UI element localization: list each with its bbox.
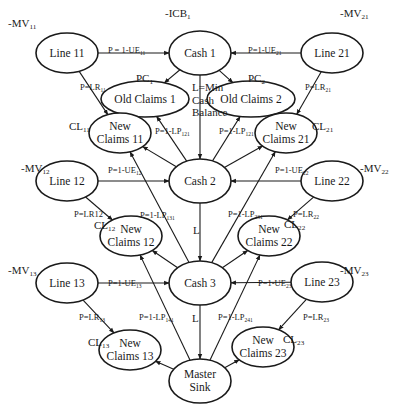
label-subscript: 23 [361, 270, 368, 278]
edge-sink-to-new13 [156, 361, 174, 369]
label-base: P=1-LP [219, 126, 246, 136]
node-label-cash1: Cash 1 [184, 47, 216, 60]
label-base: PC [136, 72, 149, 84]
label-subscript: 241 [245, 317, 253, 323]
label-subscript: 23 [323, 317, 329, 323]
node-label-line: Claims 12 [108, 236, 155, 249]
edge-label-e-cash3-new21: P=1-LP231 [228, 210, 263, 219]
node-label-line11: Line 11 [49, 47, 84, 60]
outer-label-cl12: CL12 [94, 220, 115, 231]
edge-sink-to-new23 [225, 360, 240, 368]
label-subscript: 13 [29, 270, 36, 278]
flow-label-cash2-cash3: L [193, 225, 200, 236]
node-label-line: Claims 13 [107, 350, 154, 363]
label-subscript: 21 [325, 87, 331, 93]
edge-label-e-line21-cash1: P=1-UE21 [248, 46, 281, 55]
node-label-line: New [240, 334, 287, 347]
label-base: CL [283, 333, 297, 345]
flow-label-line: L=Min [192, 81, 227, 94]
node-label-line21: Line 21 [314, 47, 349, 60]
label-subscript: 11 [100, 87, 105, 93]
node-label-line: Old Claims 2 [220, 93, 281, 106]
edge-label-e-line22-cash2: P=1-UE22 [275, 166, 308, 175]
label-subscript: 12 [136, 170, 142, 176]
label-base: CL [284, 218, 298, 230]
node-label-cash3: Cash 3 [184, 277, 216, 290]
outer-label-mv11: -MV11 [8, 18, 36, 29]
flow-label-line: Cash [192, 94, 227, 107]
outer-label-mv22: -MV22 [360, 163, 389, 174]
label-base: CL [69, 120, 83, 132]
edge-label-e-cash3-new11: P=1-LP131 [140, 211, 175, 220]
label-subscript: 23 [286, 283, 292, 289]
label-base: -MV [21, 162, 42, 174]
label-subscript: 13 [102, 342, 109, 350]
edge-cash2-to-old1 [157, 116, 187, 161]
outer-label-mv23: -MV23 [340, 265, 369, 276]
node-label-line: Cash 1 [184, 47, 216, 60]
label-base: P=1-LP [139, 312, 166, 322]
label-base: CL [94, 219, 108, 231]
label-subscript: 121 [182, 131, 190, 137]
label-subscript: 13 [99, 317, 105, 323]
outer-label-cl11: CL11 [69, 121, 90, 132]
label-subscript: 21 [361, 13, 368, 21]
edge-label-e-line23-cash3: P=1-UE23 [258, 279, 291, 288]
edge-cash1-to-old1 [164, 70, 180, 83]
label-base: P=1-UE [258, 278, 286, 288]
label-base: P=LR12 [74, 209, 103, 219]
label-subscript: 141 [166, 317, 174, 323]
label-base: CL [312, 120, 326, 132]
label-subscript: 1 [187, 13, 191, 21]
edge-cash2-to-old2 [213, 116, 241, 160]
label-base: -MV [8, 264, 29, 276]
node-label-line: Claims 11 [97, 133, 144, 146]
label-base: P=LR [80, 82, 100, 92]
node-label-new13: NewClaims 13 [107, 337, 154, 363]
node-label-line: Line 11 [49, 47, 84, 60]
label-subscript: 12 [42, 168, 49, 176]
label-base: P=1-UE [108, 278, 136, 288]
label-subscript: 231 [255, 214, 263, 220]
node-label-line: Claims 21 [263, 133, 310, 146]
label-subscript: 22 [381, 168, 388, 176]
edge-label-e-line13-new13: P=LR13 [79, 313, 105, 322]
outer-label-cl13: CL13 [88, 337, 109, 348]
outer-label-mv12: -MV12 [21, 163, 50, 174]
edge-label-e-sink-new22: P=1-LP241 [218, 313, 253, 322]
label-base: P=LR [305, 82, 325, 92]
label-subscript: 12 [108, 225, 115, 233]
edge-label-e-line13-cash3: P=1-UE13 [108, 279, 141, 288]
outer-label-mv13: -MV13 [8, 265, 37, 276]
node-label-line13: Line 13 [49, 277, 84, 290]
node-label-line: Master [184, 368, 216, 381]
node-label-line: Line 23 [304, 276, 339, 289]
edges-layer [0, 0, 403, 419]
node-label-new11: NewClaims 11 [97, 120, 144, 146]
node-label-line: Sink [184, 381, 216, 394]
label-base: CL [88, 336, 102, 348]
node-label-old1: Old Claims 1 [114, 93, 175, 106]
node-label-line: Claims 22 [246, 236, 293, 249]
label-subscript: 22 [303, 170, 309, 176]
label-base: P=1-LP [228, 209, 255, 219]
label-base: PC [248, 72, 261, 84]
label-base: -MV [360, 162, 381, 174]
edge-cash3-to-new22 [222, 251, 247, 268]
label-base: P=1-UE [275, 165, 303, 175]
label-subscript: 11 [29, 23, 36, 31]
node-label-line: Cash 3 [184, 277, 216, 290]
edge-cash2-to-new21 [224, 146, 262, 167]
label-base: P=1-LP [155, 126, 182, 136]
label-subscript: 22 [298, 224, 305, 232]
label-base: P=1-LP [140, 210, 167, 220]
node-label-line: Cash 2 [184, 175, 216, 188]
label-subscript: 11 [140, 50, 145, 56]
node-label-new23: NewClaims 23 [240, 334, 287, 360]
outer-label-icb1: -ICB1 [165, 8, 191, 19]
label-subscript: 21 [326, 126, 333, 134]
outer-label-cl22: CL22 [284, 219, 305, 230]
label-subscript: 11 [83, 126, 90, 134]
node-label-line: Line 21 [314, 47, 349, 60]
node-label-new21: NewClaims 21 [263, 120, 310, 146]
